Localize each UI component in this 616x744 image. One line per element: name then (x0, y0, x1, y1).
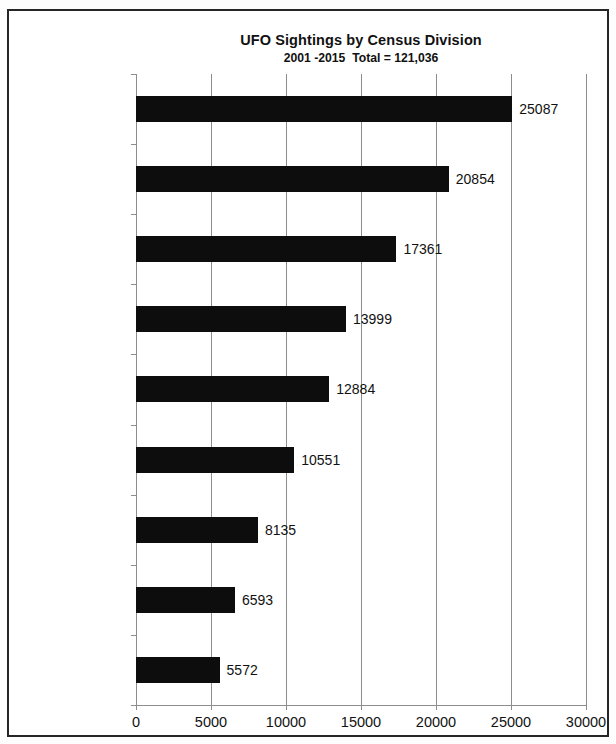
bar-row: 25087 (136, 74, 586, 144)
bar-value-label: 17361 (396, 236, 442, 262)
bar-value-label: 5572 (220, 657, 258, 683)
x-axis-tick (136, 705, 137, 710)
x-axis-tick-label: 15000 (321, 714, 401, 730)
bar-value-label: 6593 (235, 587, 273, 613)
bar-value-label: 20854 (449, 166, 495, 192)
bar (136, 166, 449, 192)
bar (136, 236, 396, 262)
x-axis-tick (286, 705, 287, 710)
page-title: UFO Sightings by Census Division (136, 31, 586, 49)
x-axis-tick-label: 10000 (246, 714, 326, 730)
bar (136, 657, 220, 683)
bar-value-label: 8135 (258, 517, 296, 543)
bar-value-label: 12884 (329, 376, 375, 402)
bar (136, 96, 512, 122)
bar-row: 20854 (136, 144, 586, 214)
bar (136, 587, 235, 613)
chart-subtitle: 2001 -2015 Total = 121,036 (136, 50, 586, 67)
bar (136, 517, 258, 543)
bar-row: 12884 (136, 354, 586, 424)
bar-row: 17361 (136, 214, 586, 284)
bar-row: 13999 (136, 284, 586, 354)
x-axis-tick (436, 705, 437, 710)
x-axis-tick-label: 25000 (471, 714, 551, 730)
x-axis-tick-label: 30000 (546, 714, 616, 730)
bar-row: 6593 (136, 565, 586, 635)
bar-row: 10551 (136, 425, 586, 495)
x-axis-tick-label: 5000 (171, 714, 251, 730)
bar-row: 8135 (136, 495, 586, 565)
bar (136, 306, 346, 332)
x-axis-tick (511, 705, 512, 710)
x-axis-tick (361, 705, 362, 710)
scanned-page: UFO Sightings by Census Division 2001 -2… (0, 0, 616, 744)
x-axis-tick-label: 0 (96, 714, 176, 730)
bar-value-label: 13999 (346, 306, 392, 332)
bar-chart-plot-area: 2508720854173611399912884105518135659355… (136, 74, 586, 705)
x-axis-tick (211, 705, 212, 710)
gridline (586, 74, 587, 705)
bar-value-label: 10551 (294, 447, 340, 473)
bar (136, 447, 294, 473)
x-axis-tick (586, 705, 587, 710)
x-axis-tick-label: 20000 (396, 714, 476, 730)
bar-value-label: 25087 (512, 96, 558, 122)
chart-title-block: UFO Sightings by Census Division 2001 -2… (136, 31, 586, 67)
bar-row: 5572 (136, 635, 586, 705)
bar (136, 376, 329, 402)
